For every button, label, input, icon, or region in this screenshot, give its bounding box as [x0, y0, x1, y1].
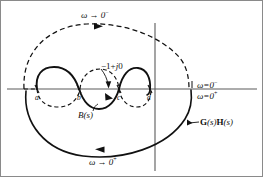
sign-sup-bottom: +	[113, 156, 116, 162]
arrow-glyph-bottom: →	[98, 157, 107, 167]
gh-h-symbol: H	[217, 117, 224, 127]
b-of-s-arg: (s)	[84, 110, 94, 120]
omega-approaches-zero-plus-label: ω → 0+	[89, 156, 117, 167]
omega-approaches-zero-minus-label: ω → 0−	[81, 9, 109, 20]
point-d-label: d	[147, 94, 151, 102]
point-c-label: c	[117, 94, 120, 102]
gh-of-s-label: G(s)H(s)	[200, 118, 233, 127]
inner-dashed-lobe-bc	[80, 69, 119, 89]
gh-first-arg: (s)	[207, 117, 217, 127]
critical-real-part: −1	[101, 61, 111, 71]
inner-dashed-lobe-ab	[37, 89, 80, 107]
omega-equals-zero-plus-label: ω=0+	[197, 90, 217, 101]
lower-solid-loop	[26, 90, 192, 157]
critical-point-label: −1+j0	[101, 62, 123, 71]
omega-equals-zero-minus-label: ω=0−	[197, 79, 217, 90]
omega-symbol-bottom: ω	[89, 157, 95, 167]
omega-symbol-top: ω	[81, 10, 87, 20]
sign-sup-eq-plus: +	[214, 90, 217, 96]
nyquist-figure: ω → 0− ω → 0+ ω=0− ω=0+ −1+j0 B(s) G(s)H…	[0, 0, 263, 177]
arrow-glyph-top: →	[90, 10, 99, 20]
critical-point-arrow-icon	[106, 81, 112, 88]
inner-solid-lobe-bc	[79, 89, 119, 109]
gh-second-arg: (s)	[224, 117, 234, 127]
sign-sup-eq-minus: −	[214, 79, 217, 85]
lower-loop-arrow-icon	[95, 146, 105, 152]
point-a-label: a	[35, 94, 39, 102]
nyquist-plot-svg	[1, 1, 263, 177]
inner-solid-lobe-cd	[119, 68, 150, 89]
point-b-label: b	[77, 94, 81, 102]
sign-sup-top: −	[105, 9, 108, 15]
inner-solid-lobe-ab	[37, 67, 79, 89]
b-of-s-label: B(s)	[78, 111, 93, 120]
gh-g-symbol: G	[200, 117, 207, 127]
gh-leader-arrow-icon	[187, 120, 193, 126]
inner-contour-arrow-icon	[105, 93, 113, 101]
critical-imag-part: 0	[118, 61, 123, 71]
